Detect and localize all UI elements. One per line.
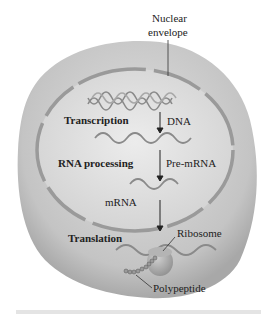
label-nuclear-envelope-2: envelope (148, 26, 188, 38)
label-rna-processing: RNA processing (58, 157, 133, 169)
label-mrna: mRNA (105, 196, 137, 208)
label-ribosome: Ribosome (177, 227, 222, 239)
ribosome-small-subunit (148, 247, 172, 257)
label-transcription: Transcription (64, 114, 129, 126)
central-dogma-diagram (0, 0, 273, 314)
label-nuclear-envelope-1: Nuclear (152, 12, 187, 24)
label-pre-mrna: Pre-mRNA (166, 157, 216, 169)
label-polypeptide: Polypeptide (153, 282, 206, 294)
label-translation: Translation (68, 232, 122, 244)
label-dna: DNA (167, 115, 191, 127)
bottom-divider (16, 310, 261, 314)
